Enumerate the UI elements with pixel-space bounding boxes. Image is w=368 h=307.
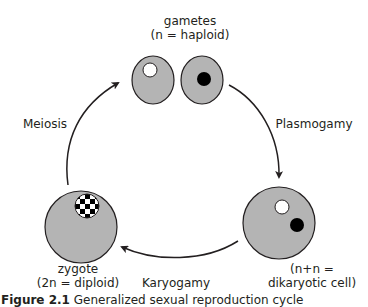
zygote-cell [45,191,117,263]
gamete-white-nucleus [132,56,174,104]
gametes-title: gametes [140,14,240,28]
dikaryotic-label: (n+n = dikaryotic cell) [262,262,362,290]
dikaryotic-cell [243,187,315,259]
dikaryotic-ploidy: (n+n = [262,262,362,276]
karyogamy-label: Karyogamy [136,276,216,290]
figure-caption-text: Generalized sexual reproduction cycle [74,293,304,307]
plasmogamy-label: Plasmogamy [274,117,354,131]
meiosis-arrow [67,83,118,185]
figure-number: Figure 2.1 [1,293,70,307]
plasmogamy-arrow [229,85,279,177]
gametes-ploidy: (n = haploid) [140,28,240,42]
zygote-title: zygote [28,262,128,276]
dikaryotic-title: dikaryotic cell) [262,276,362,290]
zygote-label: zygote (2n = diploid) [28,262,128,290]
meiosis-label: Meiosis [20,117,70,131]
zygote-ploidy: (2n = diploid) [28,276,128,290]
figure-caption: Figure 2.1 Generalized sexual reproducti… [1,293,303,307]
gametes-label: gametes (n = haploid) [140,14,240,42]
karyogamy-arrow [122,241,238,258]
gamete-black-nucleus [181,56,223,104]
